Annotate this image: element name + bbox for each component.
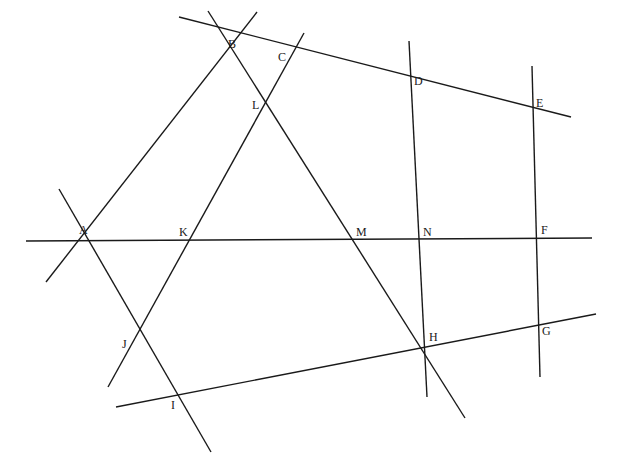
point-label-l: L xyxy=(252,98,259,112)
point-label-f: F xyxy=(541,223,548,237)
point-label-k: K xyxy=(179,225,188,239)
point-label-i: I xyxy=(171,398,175,412)
point-label-m: M xyxy=(356,225,367,239)
point-label-g: G xyxy=(542,324,551,338)
point-label-b: B xyxy=(228,37,236,51)
point-label-d: D xyxy=(414,74,423,88)
diagram-background xyxy=(0,0,621,463)
point-label-h: H xyxy=(429,330,438,344)
point-label-j: J xyxy=(122,337,127,351)
point-label-a: A xyxy=(79,223,88,237)
geometry-diagram: ABCDEFGHIJKLMN xyxy=(0,0,621,463)
point-label-c: C xyxy=(278,50,286,64)
point-label-n: N xyxy=(423,225,432,239)
point-label-e: E xyxy=(536,96,543,110)
